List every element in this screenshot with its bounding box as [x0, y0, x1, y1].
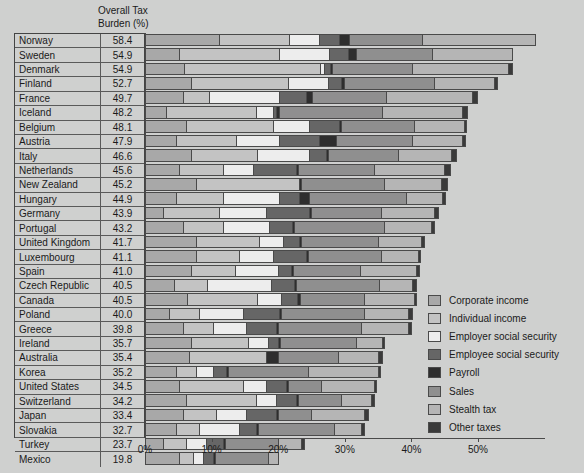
table-row: Slovakia32.7 — [15, 423, 144, 437]
bar-segment — [146, 121, 186, 132]
bar-segment — [269, 222, 292, 233]
stacked-bar — [145, 48, 513, 61]
country-label: Austria — [15, 135, 101, 148]
bar-segment — [444, 165, 449, 176]
legend-label: Payroll — [449, 367, 480, 378]
bar-segment — [191, 78, 288, 89]
bar-segment — [341, 395, 371, 406]
table-row: Belgium48.1 — [15, 121, 144, 135]
stacked-bar — [145, 77, 498, 90]
bar-segment — [364, 294, 414, 305]
legend-label: Sales — [449, 386, 474, 397]
table-row: Canada40.5 — [15, 294, 144, 308]
bar-segment — [398, 150, 451, 161]
bar-segment — [246, 410, 276, 421]
legend-swatch — [428, 349, 441, 360]
bar-row — [145, 148, 570, 162]
bar-segment — [228, 367, 308, 378]
country-label: France — [15, 92, 101, 105]
bar-segment — [432, 49, 511, 60]
bar-segment — [179, 49, 279, 60]
bar-segment — [280, 338, 357, 349]
country-label: Netherlands — [15, 164, 101, 177]
bar-segment — [421, 237, 424, 248]
bar-row — [145, 47, 570, 61]
bar-segment — [349, 35, 422, 46]
table-row: Hungary44.9 — [15, 193, 144, 207]
axis-tick-label: 20% — [268, 444, 288, 455]
stacked-bar — [145, 120, 467, 133]
bar-segment — [146, 395, 186, 406]
bar-segment — [213, 367, 226, 378]
bar-segment — [146, 424, 176, 435]
stacked-bar — [145, 192, 446, 205]
stacked-bar — [145, 322, 412, 335]
tax-burden-value: 40.0 — [101, 308, 144, 321]
stacked-bar — [145, 409, 369, 422]
bar-segment — [348, 49, 356, 60]
bar-segment — [309, 193, 406, 204]
legend-item: Employee social security — [428, 346, 580, 364]
bar-segment — [293, 266, 360, 277]
bar-segment — [146, 338, 191, 349]
table-row: Greece39.8 — [15, 322, 144, 336]
country-label: Turkey — [15, 438, 101, 451]
bar-segment — [146, 136, 176, 147]
axis-tick — [212, 438, 213, 442]
tax-burden-value: 40.5 — [101, 279, 144, 292]
bar-segment — [414, 294, 416, 305]
bar-segment — [176, 136, 236, 147]
bar-segment — [239, 424, 256, 435]
bar-segment — [434, 78, 494, 89]
bar-segment — [339, 35, 349, 46]
country-label: Spain — [15, 265, 101, 278]
bar-segment — [312, 92, 385, 103]
bar-row — [145, 105, 570, 119]
bar-segment — [278, 410, 311, 421]
bar-segment — [176, 367, 196, 378]
bar-segment — [412, 64, 508, 75]
bar-segment — [281, 309, 364, 320]
bar-segment — [146, 352, 189, 363]
country-label: Mexico — [15, 452, 101, 466]
tax-burden-value: 49.7 — [101, 92, 144, 105]
country-label: Luxembourg — [15, 250, 101, 263]
bar-segment — [356, 338, 381, 349]
bar-segment — [283, 237, 300, 248]
legend-label: Employee social security — [449, 349, 559, 360]
bar-segment — [434, 208, 438, 219]
bar-segment — [273, 121, 310, 132]
bar-segment — [146, 237, 196, 248]
chart-legend: Corporate incomeIndividual incomeEmploye… — [428, 291, 580, 437]
bar-segment — [329, 49, 348, 60]
bar-row — [145, 33, 570, 47]
bar-segment — [169, 309, 199, 320]
legend-label: Other taxes — [449, 422, 501, 433]
bar-segment — [243, 381, 266, 392]
bar-row — [145, 163, 570, 177]
country-label: United Kingdom — [15, 236, 101, 249]
country-label: Greece — [15, 322, 101, 335]
stacked-bar — [145, 337, 385, 350]
bar-segment — [412, 136, 462, 147]
bar-segment — [146, 280, 174, 291]
bar-segment — [199, 309, 242, 320]
bar-segment — [186, 121, 273, 132]
tax-burden-value: 41.7 — [101, 236, 144, 249]
bar-segment — [266, 208, 309, 219]
bar-segment — [259, 237, 282, 248]
stacked-bar — [145, 308, 413, 321]
stacked-bar — [145, 178, 448, 191]
bar-segment — [268, 338, 278, 349]
country-label: New Zealand — [15, 178, 101, 191]
table-row: United States34.5 — [15, 380, 144, 394]
bar-segment — [146, 150, 191, 161]
bar-segment — [416, 266, 419, 277]
stacked-bar — [145, 366, 381, 379]
bar-segment — [179, 381, 242, 392]
bar-segment — [213, 323, 246, 334]
tax-burden-value: 33.4 — [101, 409, 144, 422]
table-row: United Kingdom41.7 — [15, 236, 144, 250]
bar-segment — [196, 367, 213, 378]
tax-burden-value: 44.9 — [101, 193, 144, 206]
